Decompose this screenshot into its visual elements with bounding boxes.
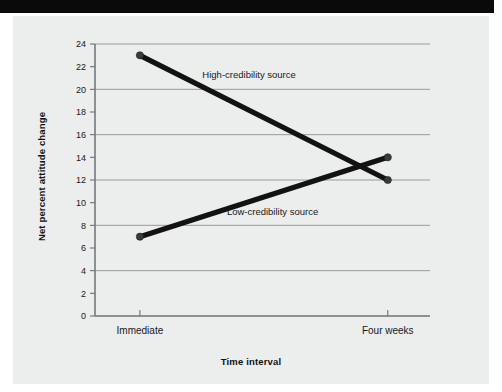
- x-axis-ticks-group: [140, 310, 388, 316]
- y-tick-label-22: 22: [76, 62, 86, 72]
- y-axis-ticks-group: 024681012141618202224: [76, 39, 95, 321]
- page-canvas: Net percent attitude change Time interva…: [0, 0, 502, 392]
- y-tick-label-4: 4: [81, 266, 86, 276]
- figure-panel: Net percent attitude change Time interva…: [13, 16, 489, 384]
- y-tick-label-20: 20: [76, 85, 86, 95]
- y-tick-label-10: 10: [76, 198, 86, 208]
- page-top-banner: [0, 0, 494, 13]
- series-point-0-0: [136, 52, 143, 59]
- x-category-label-0: Immediate: [117, 325, 164, 336]
- y-tick-label-8: 8: [81, 221, 86, 231]
- y-tick-label-2: 2: [81, 289, 86, 299]
- x-axis-category-labels: ImmediateFour weeks: [117, 325, 414, 336]
- y-tick-label-16: 16: [76, 130, 86, 140]
- y-tick-label-0: 0: [81, 311, 86, 321]
- series-point-1-1: [384, 154, 391, 161]
- series-annotation-0: High-credibility source: [202, 69, 295, 80]
- y-tick-label-6: 6: [81, 243, 86, 253]
- series-line-1: [140, 157, 388, 236]
- series-point-1-0: [136, 233, 143, 240]
- series-point-0-1: [384, 176, 391, 183]
- line-chart-plot: 024681012141618202224 High-credibility s…: [13, 16, 489, 384]
- series-annotations-group: High-credibility sourceLow-credibility s…: [202, 69, 318, 217]
- y-tick-label-24: 24: [76, 39, 86, 49]
- y-tick-label-18: 18: [76, 107, 86, 117]
- series-annotation-1: Low-credibility source: [227, 206, 318, 217]
- x-category-label-1: Four weeks: [362, 325, 414, 336]
- y-tick-label-12: 12: [76, 175, 86, 185]
- y-tick-label-14: 14: [76, 153, 86, 163]
